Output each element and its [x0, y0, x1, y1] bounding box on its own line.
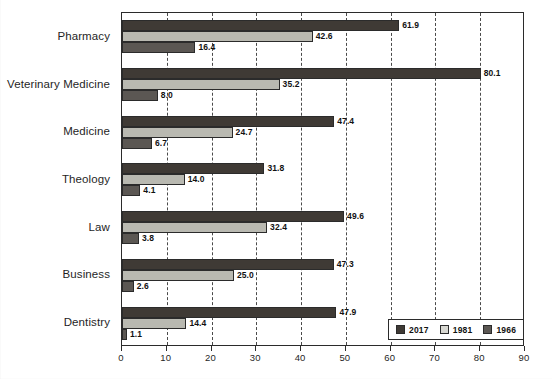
bar-value-label: 42.6	[313, 31, 333, 42]
x-axis-labels: 0102030405060708090	[121, 352, 524, 368]
bar-group: 49.632.43.8	[122, 204, 523, 252]
bar-1981	[122, 79, 280, 90]
x-tick-50	[345, 346, 346, 351]
category-label: Dentistry	[64, 316, 110, 328]
x-tick-label: 30	[250, 352, 261, 363]
legend-item-2017[interactable]: 2017	[396, 325, 429, 335]
bar-1966	[122, 185, 140, 196]
bar-2017	[122, 68, 481, 79]
bar-value-label: 32.4	[267, 222, 287, 233]
bar-2017	[122, 116, 334, 127]
bar-value-label: 35.2	[280, 79, 300, 90]
bar-1981	[122, 31, 313, 42]
x-tick-label: 10	[160, 352, 171, 363]
x-tick-label: 40	[295, 352, 306, 363]
bar-2017	[122, 211, 344, 222]
bar-value-label: 47.4	[334, 116, 354, 127]
x-tick-40	[300, 346, 301, 351]
bar-2017	[122, 163, 264, 174]
category-label: Pharmacy	[57, 30, 110, 42]
category-axis-labels: PharmacyVeterinary MedicineMedicineTheol…	[0, 12, 116, 346]
x-tick-70	[434, 346, 435, 351]
bar-value-label: 4.1	[140, 185, 155, 196]
x-tick-label: 80	[474, 352, 485, 363]
bar-group: 31.814.04.1	[122, 156, 523, 204]
bar-1966	[122, 281, 134, 292]
bar-value-label: 14.4	[186, 318, 206, 329]
bar-1981	[122, 127, 233, 138]
bar-group: 47.325.02.6	[122, 252, 523, 300]
bar-value-label: 1.1	[127, 329, 142, 340]
bar-value-label: 80.1	[481, 68, 501, 79]
bar-value-label: 47.9	[336, 307, 356, 318]
bar-chart-figure: PharmacyVeterinary MedicineMedicineTheol…	[0, 0, 552, 379]
category-label: Law	[89, 221, 110, 233]
bar-2017	[122, 20, 399, 31]
x-tick-label: 0	[118, 352, 123, 363]
x-tick-label: 20	[205, 352, 216, 363]
bar-value-label: 61.9	[399, 20, 419, 31]
bar-2017	[122, 259, 334, 270]
legend-swatch-icon	[440, 325, 449, 334]
bar-2017	[122, 307, 336, 318]
legend-label: 1966	[496, 325, 516, 335]
legend-item-1966[interactable]: 1966	[483, 325, 516, 335]
bar-1966	[122, 42, 195, 53]
category-label: Theology	[62, 173, 110, 185]
x-tick-20	[211, 346, 212, 351]
bar-group: 61.942.616.4	[122, 13, 523, 61]
x-tick-60	[390, 346, 391, 351]
bar-value-label: 31.8	[264, 163, 284, 174]
bar-value-label: 24.7	[233, 127, 253, 138]
bar-value-label: 14.0	[185, 174, 205, 185]
x-tick-0	[121, 346, 122, 351]
chart-legend: 201719811966	[388, 319, 524, 340]
legend-label: 2017	[409, 325, 429, 335]
bar-value-label: 6.7	[152, 138, 167, 149]
bar-value-label: 16.4	[195, 42, 215, 53]
bar-1981	[122, 270, 234, 281]
category-label: Veterinary Medicine	[7, 78, 110, 90]
bar-1966	[122, 90, 158, 101]
bar-1966	[122, 233, 139, 244]
bar-value-label: 8.0	[158, 90, 173, 101]
x-tick-label: 60	[384, 352, 395, 363]
bar-groups: 61.942.616.480.135.28.047.424.76.731.814…	[122, 13, 523, 345]
legend-swatch-icon	[483, 325, 492, 334]
bar-group: 47.424.76.7	[122, 108, 523, 156]
x-tick-30	[255, 346, 256, 351]
bar-1981	[122, 222, 267, 233]
plot-area: 61.942.616.480.135.28.047.424.76.731.814…	[121, 12, 524, 346]
bar-value-label: 25.0	[234, 270, 254, 281]
bar-value-label: 2.6	[134, 281, 149, 292]
legend-label: 1981	[453, 325, 473, 335]
x-tick-label: 50	[339, 352, 350, 363]
x-tick-10	[166, 346, 167, 351]
x-tick-label: 90	[519, 352, 530, 363]
bar-1981	[122, 174, 185, 185]
category-label: Business	[63, 268, 110, 280]
x-tick-label: 70	[429, 352, 440, 363]
bar-value-label: 49.6	[344, 211, 364, 222]
bar-value-label: 47.3	[334, 259, 354, 270]
bar-value-label: 3.8	[139, 233, 154, 244]
bar-group: 80.135.28.0	[122, 61, 523, 109]
legend-item-1981[interactable]: 1981	[440, 325, 473, 335]
legend-swatch-icon	[396, 325, 405, 334]
x-tick-80	[479, 346, 480, 351]
bar-1981	[122, 318, 186, 329]
category-label: Medicine	[63, 125, 110, 137]
bar-1966	[122, 138, 152, 149]
x-tick-90	[524, 346, 525, 351]
